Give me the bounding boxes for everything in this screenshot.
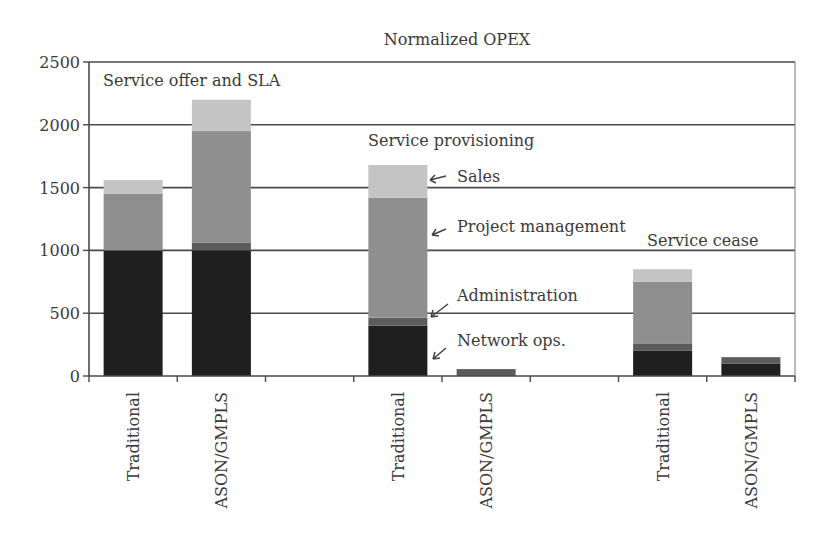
y-tick-label: 2500 <box>39 53 80 72</box>
bar-segment-administration <box>192 243 251 251</box>
bar-4 <box>457 369 516 376</box>
group-label-service-provisioning: Service provisioning <box>368 131 534 150</box>
bar-segment-project-management <box>368 198 427 318</box>
y-tick-label: 1500 <box>39 179 80 198</box>
x-tick-label: ASON/GMPLS <box>477 392 496 510</box>
arrow-icon <box>433 348 446 359</box>
y-tick-label: 0 <box>70 367 80 386</box>
bar-segment-project-management <box>633 282 692 344</box>
annotation-sales-label: Sales <box>457 167 500 186</box>
bar-segment-network-ops <box>104 250 163 376</box>
x-tick-label: ASON/GMPLS <box>212 392 231 510</box>
bar-1 <box>192 100 251 376</box>
x-tick-label: Traditional <box>389 392 408 481</box>
x-tick-label: Traditional <box>654 392 673 481</box>
x-tick-label: Traditional <box>124 392 143 481</box>
bar-segment-network-ops <box>192 250 251 376</box>
annotation-administration: Administration <box>431 286 578 317</box>
bar-segment-administration <box>457 369 516 376</box>
bar-segment-sales <box>192 100 251 131</box>
chart-canvas: 05001000150020002500 TraditionalASON/GMP… <box>0 0 827 555</box>
bar-3 <box>368 165 427 376</box>
arrow-icon <box>432 229 446 236</box>
x-axis-tick-labels: TraditionalASON/GMPLSTraditionalASON/GMP… <box>124 392 761 510</box>
y-tick-label: 2000 <box>39 116 80 135</box>
bar-segment-network-ops <box>721 363 780 376</box>
bar-segment-sales <box>104 180 163 194</box>
bar-segment-administration <box>721 357 780 363</box>
y-axis-tick-labels: 05001000150020002500 <box>39 53 80 386</box>
bar-segment-project-management <box>104 194 163 251</box>
y-tick-label: 1000 <box>39 241 80 260</box>
bar-segment-administration <box>368 318 427 326</box>
group-label-service-cease: Service cease <box>647 231 758 250</box>
chart-title: Normalized OPEX <box>384 30 531 49</box>
annotation-project-management: Project management <box>432 217 626 236</box>
bar-0 <box>104 180 163 376</box>
bar-segment-administration <box>633 344 692 351</box>
arrow-icon <box>430 175 446 183</box>
bar-segment-project-management <box>192 131 251 243</box>
annotation-network-ops: Network ops. <box>433 331 566 359</box>
y-tick-label: 500 <box>49 304 80 323</box>
bar-segment-sales <box>368 165 427 198</box>
group-label-service-offer-sla: Service offer and SLA <box>103 71 281 90</box>
bar-segment-network-ops <box>633 351 692 376</box>
x-tick-label: ASON/GMPLS <box>742 392 761 510</box>
bar-7 <box>721 357 780 376</box>
bar-segment-sales <box>633 269 692 282</box>
bar-segment-network-ops <box>368 326 427 376</box>
annotation-sales: Sales <box>430 167 500 186</box>
bar-6 <box>633 269 692 376</box>
opex-stacked-bar-chart: 05001000150020002500 TraditionalASON/GMP… <box>0 0 827 555</box>
annotation-administration-label: Administration <box>456 286 578 305</box>
annotation-project-management-label: Project management <box>457 217 626 236</box>
arrow-icon <box>431 304 448 317</box>
annotation-network-ops-label: Network ops. <box>457 331 566 350</box>
